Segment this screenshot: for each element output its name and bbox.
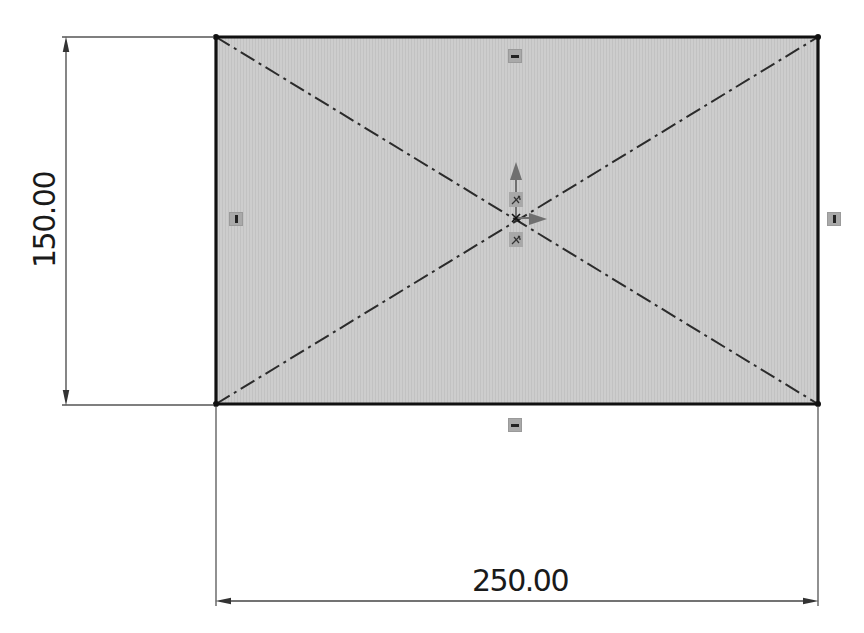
vertical-relation-icon (235, 215, 238, 223)
horizontal-relation-bottom[interactable] (508, 418, 522, 432)
vertical-relation-icon (833, 215, 836, 223)
coincident-relation-icon[interactable] (509, 192, 523, 207)
vertical-dimension[interactable] (62, 37, 214, 405)
horizontal-relation-top[interactable] (508, 49, 522, 63)
vertical-relation-left[interactable] (229, 212, 243, 226)
horizontal-relation-icon (511, 424, 519, 427)
vertical-relation-right[interactable] (827, 212, 841, 226)
coincident-relation-icon[interactable] (509, 232, 523, 247)
horizontal-relation-icon (511, 55, 519, 58)
sketch-canvas[interactable] (0, 0, 864, 633)
vertical-dimension-value[interactable]: 150.00 (30, 120, 60, 320)
horizontal-dimension-value[interactable]: 250.00 (420, 566, 620, 596)
corner-point-top-right[interactable] (815, 34, 821, 40)
